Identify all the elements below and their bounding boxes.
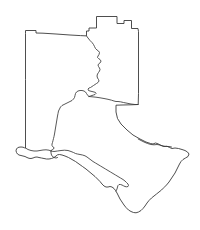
map-figure [0,0,200,230]
internal-boundary-north [87,36,102,97]
coastal-inlet-line [26,148,129,191]
boundary-shape-layer [16,17,189,213]
outer-boundary [16,17,189,213]
map-canvas [0,0,200,230]
internal-boundary-southwest [51,91,89,152]
internal-boundary-east [89,97,138,105]
